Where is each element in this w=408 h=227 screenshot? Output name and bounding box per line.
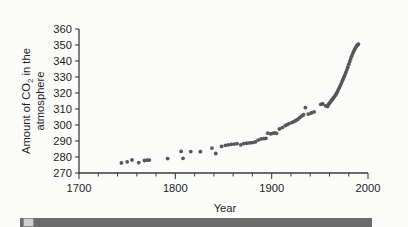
data-point [198,150,202,154]
data-point [275,131,279,135]
x-tick-label: 1900 [259,182,284,194]
x-tick-label: 1700 [67,182,92,194]
y-tick-label: 300 [53,119,72,131]
data-point [147,158,151,162]
data-point [214,152,218,156]
y-tick-label: 270 [53,167,72,179]
caption-text [38,218,368,227]
y-tick-label: 320 [53,87,72,99]
y-tick-label: 350 [53,39,72,51]
data-point [130,158,134,162]
y-tick-label: 280 [53,151,72,163]
chart-canvas: 270280290300310320330340350360 170018001… [0,0,408,227]
x-tick-label: 2000 [356,182,381,194]
data-point [179,150,183,154]
y-tick-label: 360 [53,23,72,35]
data-point [181,156,185,160]
data-point [220,145,224,149]
data-point [303,106,307,110]
data-point [264,136,268,140]
x-tick-label: 1800 [163,182,188,194]
y-tick-label: 290 [53,135,72,147]
data-point [356,42,360,46]
y-tick-label: 340 [53,55,72,67]
y-axis-title-text-main: Amount of CO [20,83,32,154]
caption-badge-icon [23,218,34,227]
data-point [302,113,306,117]
data-point [137,161,141,165]
y-tick-label: 330 [53,71,72,83]
data-point [235,142,239,146]
data-point [189,150,193,154]
co2-chart-figure: 270280290300310320330340350360 170018001… [0,0,408,227]
data-point [166,157,170,161]
y-axis-title-text-tail: in the [20,48,32,78]
data-point [312,110,316,114]
y-axis-title-line2: atmosphere [34,71,46,130]
data-point [119,161,123,165]
data-point [125,160,129,164]
y-tick-label: 310 [53,103,72,115]
data-point [210,146,214,150]
x-axis-title: Year [214,202,237,214]
